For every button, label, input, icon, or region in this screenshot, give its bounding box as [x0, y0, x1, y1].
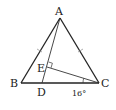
right-angle-marker	[49, 62, 53, 68]
label-a: A	[54, 5, 64, 18]
geometry-diagram: A B C D E 16°	[0, 0, 116, 110]
angle-label-16: 16°	[72, 89, 86, 98]
label-d: D	[37, 86, 46, 99]
label-e: E	[37, 62, 45, 75]
angle-arc-c	[83, 78, 84, 83]
label-b: B	[10, 77, 18, 90]
label-c: C	[101, 77, 109, 90]
